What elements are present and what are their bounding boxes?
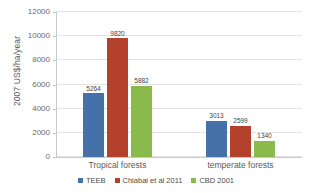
- bar-value-label: 2599: [224, 117, 257, 124]
- bar: [131, 86, 152, 157]
- x-category-label: temperate forests: [181, 160, 301, 170]
- legend-label: Chiabai et al 2011: [123, 176, 183, 185]
- bar: [254, 141, 275, 157]
- bar: [206, 121, 227, 157]
- bar-value-label: 9820: [101, 30, 134, 37]
- bars-layer: 526498205882301325991340: [56, 12, 302, 157]
- bar-chart: 2007 US$/ha/year 52649820588230132599134…: [0, 0, 312, 193]
- y-axis-line: [56, 12, 57, 157]
- chart-legend: TEEBChiabai et al 2011CBD 2001: [0, 176, 312, 185]
- legend-item[interactable]: TEEB: [78, 176, 106, 185]
- bar-value-label: 1340: [248, 132, 281, 139]
- bar-value-label: 5264: [77, 85, 110, 92]
- legend-swatch-icon: [78, 178, 83, 183]
- bar: [107, 38, 128, 157]
- legend-item[interactable]: Chiabai et al 2011: [115, 176, 183, 185]
- legend-item[interactable]: CBD 2001: [191, 176, 234, 185]
- legend-swatch-icon: [115, 178, 120, 183]
- plot-area: 526498205882301325991340: [56, 12, 302, 157]
- bar: [230, 126, 251, 157]
- x-category-label: Tropical forests: [58, 160, 178, 170]
- y-tick-label: 0: [6, 152, 50, 161]
- bar-value-label: 5882: [125, 77, 158, 84]
- x-axis-labels: Tropical foreststemperate forests: [56, 160, 302, 174]
- legend-label: CBD 2001: [199, 176, 234, 185]
- bar: [83, 93, 104, 157]
- y-axis-title: 2007 US$/ha/year: [12, 6, 22, 136]
- x-axis-line: [56, 157, 302, 158]
- legend-swatch-icon: [191, 178, 196, 183]
- legend-label: TEEB: [86, 176, 106, 185]
